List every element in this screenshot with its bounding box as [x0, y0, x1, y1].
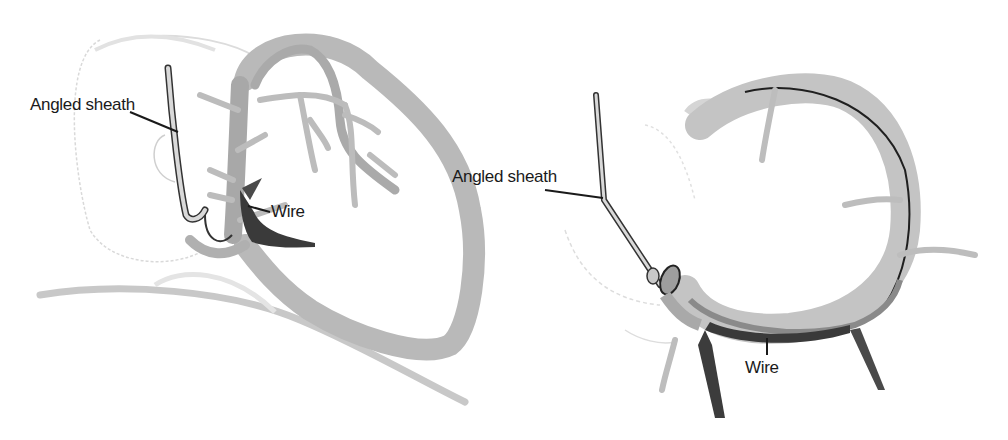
label-wire-right: Wire [745, 358, 779, 378]
label-angled-sheath-right: Angled sheath [452, 167, 557, 187]
label-wire-left: Wire [271, 202, 305, 222]
sheath-pointer-line-right [545, 190, 603, 198]
right-heart-illustration-panel: Angled sheath Wire [500, 0, 1008, 440]
label-angled-sheath-left: Angled sheath [30, 95, 135, 115]
left-heart-illustration [0, 0, 500, 440]
left-heart-illustration-panel: Angled sheath Wire [0, 0, 500, 440]
